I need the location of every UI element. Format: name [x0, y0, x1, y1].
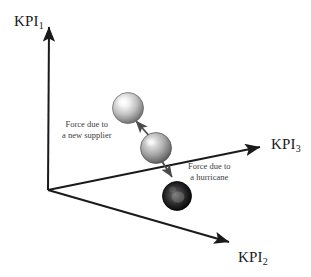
axis-label-kpi2: KPI2	[238, 249, 268, 266]
sphere-lower-dark	[163, 182, 192, 211]
axis-label-kpi3-main: KPI	[271, 136, 296, 152]
axis-label-kpi1-main: KPI	[14, 13, 39, 29]
annotation-force-new-supplier-line2: a new supplier	[62, 130, 112, 141]
diagram-canvas	[0, 0, 311, 277]
axis-label-kpi1-sub: 1	[39, 20, 44, 31]
annotation-force-hurricane-line2: a hurricane	[188, 172, 231, 183]
sphere-upper-light	[113, 93, 144, 124]
annotation-force-hurricane: Force due to a hurricane	[188, 161, 231, 183]
axis-label-kpi3: KPI3	[271, 136, 301, 153]
kpi-force-diagram: KPI1 KPI3 KPI2 Force due to a new suppli…	[0, 0, 311, 277]
annotation-force-hurricane-line1: Force due to	[188, 161, 231, 172]
axis-label-kpi1: KPI1	[14, 13, 44, 30]
axis-label-kpi2-main: KPI	[238, 249, 263, 265]
sphere-middle-medium	[141, 133, 172, 164]
annotation-force-new-supplier: Force due to a new supplier	[62, 119, 112, 141]
axis-label-kpi2-sub: 2	[263, 256, 268, 267]
axis-label-kpi3-sub: 3	[296, 143, 301, 154]
axis-line-kpi2	[48, 190, 229, 242]
annotation-force-new-supplier-line1: Force due to	[62, 119, 112, 130]
axis-line-kpi1	[48, 27, 49, 190]
